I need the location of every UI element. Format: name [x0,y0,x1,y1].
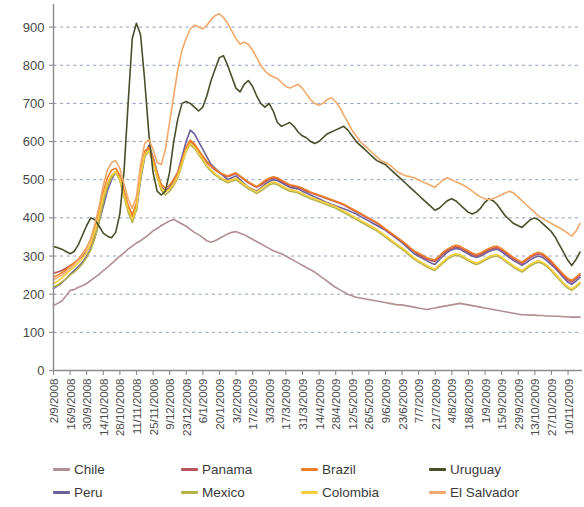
legend-item-panama[interactable]: Panama [181,463,301,477]
x-tick-label: 3/2/2009 [231,379,243,424]
x-tick-label: 14/10/2008 [98,379,110,437]
legend-item-mexico[interactable]: Mexico [181,486,301,500]
x-tick-label: 30/9/2008 [81,379,93,430]
x-tick-label: 25/11/2008 [148,379,160,436]
x-tick-label: 16/9/2008 [65,379,77,430]
y-tick-label: 0 [37,363,44,378]
legend-swatch-icon [301,491,318,494]
x-tick-label: 14/4/2009 [314,379,326,430]
x-tick-label: 17/2/2009 [247,379,259,430]
gridlines-group [54,27,581,332]
legend-swatch-icon [301,468,318,471]
x-tick-label: 12/5/2009 [347,379,359,430]
legend-label: Colombia [322,486,379,500]
x-tick-label: 18/8/2009 [463,379,475,430]
x-tick-label: 9/12/2008 [164,379,176,430]
legend-label: Chile [74,463,105,477]
legend-swatch-icon [53,491,70,494]
x-tick-label: 23/12/2008 [181,379,193,437]
x-tick-label: 3/3/2009 [264,379,276,424]
legend-swatch-icon [429,491,446,494]
legend-label: Brazil [322,463,356,477]
legend-item-chile[interactable]: Chile [53,463,181,477]
y-tick-label: 100 [23,325,45,340]
y-tick-label: 400 [23,210,45,225]
y-tick-label: 200 [23,287,45,302]
legend-swatch-icon [53,468,70,471]
x-tick-label: 27/10/2009 [546,379,558,437]
legend-item-colombia[interactable]: Colombia [301,486,429,500]
x-tick-label: 28/4/2009 [330,379,342,430]
chart-figure: 0100200300400500600700800900 2/9/200816/… [0,0,584,507]
legend-item-brazil[interactable]: Brazil [301,463,429,477]
y-tick-label: 800 [23,58,45,73]
series-line-el-salvador [54,14,581,280]
legend-item-uruguay[interactable]: Uruguay [429,463,579,477]
x-tick-label: 2/9/2008 [48,379,60,424]
x-tick-label: 26/5/2009 [363,379,375,430]
legend-label: Panama [202,463,252,477]
x-axis-tick-labels: 2/9/200816/9/200830/9/200814/10/200828/1… [48,379,575,437]
series-line-panama [54,142,581,282]
x-tick-label: 21/7/2009 [430,379,442,430]
x-tick-label: 20/1/2009 [214,379,226,430]
legend-label: Uruguay [450,463,501,477]
legend-swatch-icon [181,468,198,471]
legend-label: Peru [74,486,103,500]
series-line-uruguay [54,23,581,265]
x-tick-label: 6/1/2009 [197,379,209,424]
x-tick-label: 29/9/2009 [513,379,525,430]
line-chart-plot: 0100200300400500600700800900 2/9/200816/… [0,0,584,460]
axis-lines [54,4,583,371]
x-tick-label: 11/11/2008 [131,379,143,435]
y-tick-label: 900 [23,20,45,35]
x-tick-label: 17/3/2009 [280,379,292,430]
series-line-chile [54,219,581,317]
x-tick-label: 28/10/2008 [114,379,126,437]
x-tick-label: 4/8/2009 [446,379,458,424]
legend-label: El Salvador [450,486,519,500]
series-group [54,14,581,317]
x-tick-label: 15/9/2009 [496,379,508,430]
y-tick-label: 600 [23,134,45,149]
y-tick-label: 300 [23,249,45,264]
x-tick-label: 1/9/2009 [480,379,492,424]
x-tick-label: 9/6/2009 [380,379,392,424]
legend-swatch-icon [181,491,198,494]
y-tick-label: 500 [23,172,45,187]
legend-label: Mexico [202,486,245,500]
x-tick-label: 13/10/2009 [529,379,541,437]
x-tick-label: 23/6/2009 [397,379,409,430]
x-tick-label: 10/11/2009 [563,379,575,436]
y-axis-tick-labels: 0100200300400500600700800900 [23,20,45,378]
legend-item-peru[interactable]: Peru [53,486,181,500]
chart-legend: ChilePeruPanamaMexicoBrazilColombiaUrugu… [53,458,581,504]
legend-item-el-salvador[interactable]: El Salvador [429,486,579,500]
x-tick-label: 31/3/2009 [297,379,309,430]
legend-swatch-icon [429,468,446,471]
y-tick-label: 700 [23,96,45,111]
x-tick-label: 7/7/2009 [413,379,425,424]
